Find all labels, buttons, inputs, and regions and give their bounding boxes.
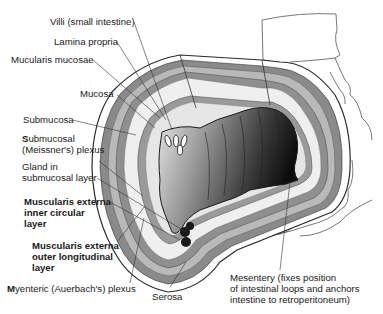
label-submucosa: Submucosa — [23, 114, 74, 125]
label-outer-longitudinal: Muscularis externa outer longitudinal la… — [32, 240, 119, 273]
label-myenteric-plexus: Myenteric (Auerbach's) plexus — [7, 283, 136, 294]
label-inner-circular: Muscularis externa inner circular layer — [24, 196, 111, 229]
label-muscularis-mucosae: Mucularis mucosae — [11, 54, 94, 65]
label-gland: Gland in submucosal layer — [22, 161, 97, 183]
label-villi: Villi (small intestine) — [50, 16, 135, 27]
label-lamina-propria: Lamina propria — [54, 36, 118, 47]
label-serosa: Serosa — [152, 291, 182, 302]
label-mesentery: Mesentery (fixes position of intestinal … — [230, 272, 360, 305]
label-submucosal-plexus: Submucosal (Meissner's) plexus — [22, 133, 104, 155]
intestine-diagram: Villi (small intestine) Lamina propria M… — [0, 0, 383, 314]
label-mucosa: Mucosa — [80, 88, 114, 99]
